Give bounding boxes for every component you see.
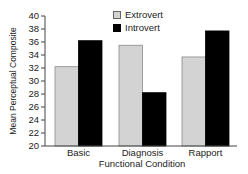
- legend-swatch-introvert: [113, 24, 121, 32]
- y-tick-label: 26: [28, 101, 39, 112]
- x-tick-label: Diagnosis: [122, 147, 164, 158]
- x-tick-label: Basic: [67, 147, 90, 158]
- bar-diagnosis-extrovert: [119, 45, 143, 146]
- bar-basic-introvert: [79, 41, 103, 146]
- bar-diagnosis-introvert: [143, 93, 167, 146]
- y-axis-title: Mean Perceptual Composite: [8, 27, 18, 134]
- y-tick-label: 20: [28, 140, 39, 151]
- legend-label-extrovert: Extrovert: [125, 9, 163, 20]
- legend-item-extrovert: Extrovert: [113, 8, 163, 21]
- y-tick-label: 40: [28, 10, 39, 21]
- bar-rapport-extrovert: [182, 57, 206, 146]
- x-axis-title: Functional Condition: [99, 158, 186, 169]
- y-tick-label: 22: [28, 127, 39, 138]
- legend-swatch-extrovert: [113, 11, 121, 19]
- x-tick-label: Rapport: [189, 147, 223, 158]
- legend-item-introvert: Introvert: [113, 21, 163, 34]
- y-tick-label: 36: [28, 36, 39, 47]
- y-tick-label: 30: [28, 75, 39, 86]
- bar-basic-extrovert: [55, 67, 79, 146]
- y-tick-label: 38: [28, 23, 39, 34]
- y-tick-label: 34: [28, 49, 39, 60]
- y-tick-label: 28: [28, 88, 39, 99]
- y-tick-label: 24: [28, 114, 39, 125]
- bar-rapport-introvert: [206, 31, 230, 146]
- legend-label-introvert: Introvert: [125, 22, 160, 33]
- y-tick-label: 32: [28, 62, 39, 73]
- legend: Extrovert Introvert: [113, 8, 163, 34]
